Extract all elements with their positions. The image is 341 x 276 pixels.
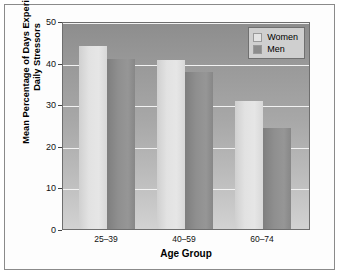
bar-men-60-74 [263,128,291,229]
x-axis-title: Age Group [62,248,310,259]
y-axis-title: Mean Percentage of Days Experiencing Dai… [21,0,43,157]
x-axis-tick-label-40-59: 40–59 [172,234,196,244]
x-axis-tick-label-25-39: 25–39 [94,234,118,244]
y-axis-tick-mark [58,230,62,231]
x-axis-tick-label-60-74: 60–74 [250,234,274,244]
y-axis-tick-label-10: 10 [16,183,56,193]
legend-swatch-women-icon [253,33,262,42]
bar-men-40-59 [185,72,213,229]
bar-women-60-74 [235,101,263,229]
y-axis-title-line-2: Daily Stressors [32,23,42,91]
legend-swatch-men-icon [253,45,262,54]
bar-women-25-39 [79,46,107,229]
bar-women-40-59 [157,60,185,229]
figure: 50 40 30 20 10 0 Mean Percentage of Days… [0,0,341,276]
bar-men-25-39 [107,59,135,229]
legend-item-women: Women [253,31,298,43]
y-axis-title-line-1: Mean Percentage of Days Experiencing [21,0,31,144]
gridline-50 [63,23,309,24]
y-axis-tick-label-0: 0 [16,225,56,235]
legend-label-women: Women [267,32,298,42]
plot-area: Women Men [62,22,310,230]
legend-item-men: Men [253,43,298,55]
legend-label-men: Men [267,44,285,54]
legend: Women Men [248,27,305,59]
